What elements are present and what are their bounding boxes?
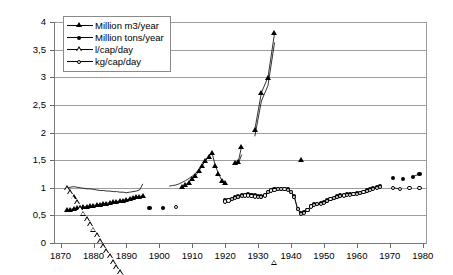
circle-filled-icon xyxy=(67,32,93,44)
triangle-filled-icon xyxy=(67,20,93,32)
legend-item-million-m3-year[interactable]: Million m3/year xyxy=(67,20,164,32)
series-line xyxy=(235,146,242,163)
series-line xyxy=(393,188,400,189)
series-line xyxy=(67,184,143,193)
series-line xyxy=(255,33,275,130)
series-line xyxy=(413,174,420,177)
triangle-open-icon xyxy=(67,44,93,56)
circle-open-icon xyxy=(67,56,93,68)
series-line xyxy=(67,195,143,209)
series-line xyxy=(225,186,380,213)
series-line xyxy=(225,187,380,214)
legend-label: l/cap/day xyxy=(93,44,133,56)
chart-container: 00,511,522,533,54 1870188018901900191019… xyxy=(0,0,453,275)
series-line xyxy=(255,42,275,136)
legend-item-l-cap-day[interactable]: l/cap/day xyxy=(67,44,164,56)
legend-item-kg-cap-day[interactable]: kg/cap/day xyxy=(67,56,164,68)
chart-legend: Million m3/year Million tons/year l/cap/… xyxy=(63,16,171,72)
legend-item-million-tons-year[interactable]: Million tons/year xyxy=(67,32,164,44)
legend-label: kg/cap/day xyxy=(93,56,141,68)
legend-label: Million m3/year xyxy=(93,20,159,32)
series-line xyxy=(182,153,225,187)
legend-label: Million tons/year xyxy=(93,32,164,44)
